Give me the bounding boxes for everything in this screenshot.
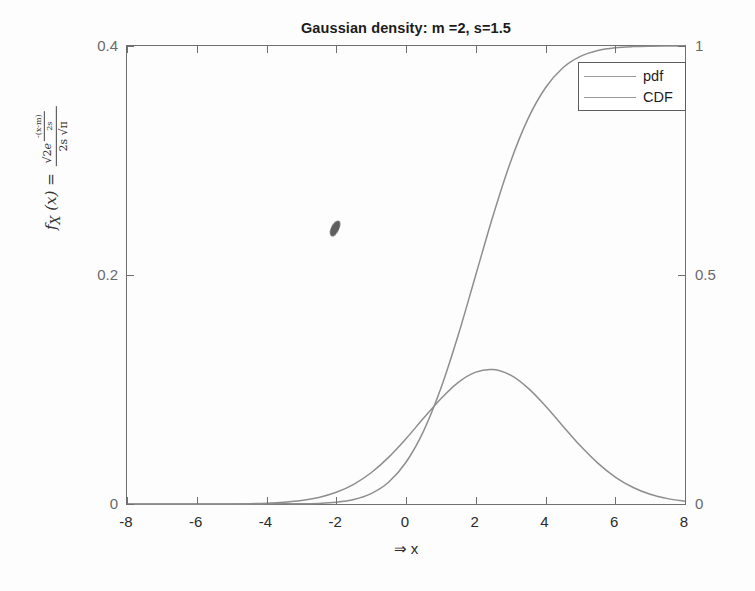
- x-tick-bot: [406, 497, 407, 504]
- y-axis-subscript: X: [48, 216, 63, 225]
- x-tick-bot: [546, 497, 547, 504]
- x-tick-label: -8: [119, 513, 132, 530]
- x-tick-bot: [127, 497, 128, 504]
- legend-label-cdf: CDF: [643, 90, 673, 105]
- pdf-curve: [127, 369, 685, 504]
- y-tick-right: [678, 504, 685, 505]
- y-tick-right: [678, 275, 685, 276]
- x-tick-top: [406, 46, 407, 53]
- x-tick-label: 8: [680, 513, 688, 530]
- x-tick-bot: [197, 497, 198, 504]
- x-tick-bot: [267, 497, 268, 504]
- y-axis-e: e: [41, 143, 54, 150]
- x-tick-label: -4: [259, 513, 272, 530]
- y-tick-left: [127, 275, 134, 276]
- x-tick-label: -6: [189, 513, 202, 530]
- legend[interactable]: pdf CDF: [578, 62, 686, 111]
- y-axis-equals: =: [42, 173, 60, 186]
- x-tick-label: 4: [540, 513, 548, 530]
- y-axis-fx: f: [42, 224, 60, 230]
- x-axis-title: ⇒ x: [126, 540, 686, 558]
- y-axis-arg: (x): [42, 191, 60, 211]
- x-tick-top: [197, 46, 198, 53]
- curve-layer: [127, 46, 685, 504]
- legend-label-pdf: pdf: [643, 69, 663, 84]
- y-tick-label-left: 0: [68, 495, 118, 512]
- legend-item-pdf[interactable]: pdf: [584, 66, 680, 87]
- x-tick-top: [267, 46, 268, 53]
- x-tick-bot: [336, 497, 337, 504]
- y-tick-right: [678, 46, 685, 47]
- legend-swatch-cdf: [584, 97, 636, 98]
- x-tick-top: [476, 46, 477, 53]
- y-axis-sqrt2: √2: [41, 149, 54, 163]
- plot-area: [126, 45, 686, 505]
- x-tick-top: [336, 46, 337, 53]
- y-tick-label-left: 0.2: [68, 266, 118, 283]
- y-tick-label-right: 0.5: [695, 266, 716, 283]
- y-axis-title: fX (x) = √2e-(x-m)2s 2s √π: [35, 37, 69, 297]
- y-axis-exp-fraction: -(x-m)2s: [35, 111, 55, 141]
- y-tick-label-right: 1: [695, 37, 703, 54]
- chart-title: Gaussian density: m =2, s=1.5: [126, 20, 686, 36]
- x-tick-label: 6: [610, 513, 618, 530]
- y-axis-numerator: √2e-(x-m)2s: [35, 106, 57, 166]
- x-tick-top: [546, 46, 547, 53]
- y-axis-fraction: √2e-(x-m)2s 2s √π: [35, 106, 69, 166]
- cdf-curve: [127, 46, 685, 504]
- x-tick-top: [685, 46, 686, 53]
- x-tick-top: [615, 46, 616, 53]
- chart-canvas: Gaussian density: m =2, s=1.5 fX (x) = √…: [0, 0, 755, 591]
- x-tick-bot: [685, 497, 686, 504]
- y-tick-left: [127, 46, 134, 47]
- x-tick-label: 2: [471, 513, 479, 530]
- y-tick-left: [127, 504, 134, 505]
- y-axis-exponent: -(x-m)2s: [40, 109, 49, 143]
- y-axis-denominator: 2s √π: [57, 106, 70, 166]
- x-tick-label: -2: [329, 513, 342, 530]
- x-tick-bot: [476, 497, 477, 504]
- legend-item-cdf[interactable]: CDF: [584, 87, 680, 108]
- legend-swatch-pdf: [584, 76, 636, 77]
- y-axis-exp-num: -(x-m): [35, 111, 45, 141]
- x-tick-bot: [615, 497, 616, 504]
- y-axis-exp-den: 2s: [45, 111, 54, 141]
- x-tick-label: 0: [401, 513, 409, 530]
- y-tick-label-right: 0: [695, 495, 703, 512]
- y-tick-label-left: 0.4: [68, 37, 118, 54]
